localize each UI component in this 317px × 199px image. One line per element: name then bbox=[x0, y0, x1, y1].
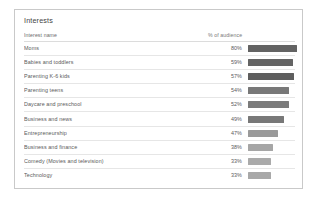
interest-name-cell: Business and finance bbox=[24, 144, 208, 151]
audience-bar bbox=[248, 101, 289, 108]
table-body: Moms80%Babies and toddlers59%Parenting K… bbox=[24, 42, 295, 183]
audience-bar bbox=[248, 158, 271, 165]
table-header-row: Interest name % of audience bbox=[24, 30, 295, 42]
bar-cell bbox=[242, 141, 295, 154]
interest-name-cell: Business and news bbox=[24, 116, 208, 123]
table-row: Moms80% bbox=[24, 42, 295, 56]
table-row: Technology33% bbox=[24, 169, 295, 183]
audience-bar bbox=[248, 144, 273, 151]
page-root: Interests Interest name % of audience Mo… bbox=[0, 0, 317, 199]
interest-name-cell: Daycare and preschool bbox=[24, 101, 208, 108]
interest-name-cell: Parenting K-6 kids bbox=[24, 73, 208, 80]
bar-cell bbox=[242, 127, 295, 140]
percent-value-cell: 80% bbox=[208, 45, 242, 52]
interest-name-cell: Parenting teens bbox=[24, 87, 208, 94]
audience-bar bbox=[248, 59, 293, 66]
table-row: Comedy (Movies and television)33% bbox=[24, 155, 295, 169]
table-row: Business and news49% bbox=[24, 112, 295, 126]
column-header-interest-name: Interest name bbox=[24, 32, 208, 39]
percent-value-cell: 33% bbox=[208, 158, 242, 165]
audience-bar bbox=[248, 45, 297, 52]
page-title: Interests bbox=[24, 16, 53, 25]
interest-name-cell: Comedy (Movies and television) bbox=[24, 158, 208, 165]
interest-name-cell: Technology bbox=[24, 172, 208, 179]
percent-value-cell: 47% bbox=[208, 130, 242, 137]
bar-cell bbox=[242, 112, 295, 125]
interest-name-cell: Entrepreneurship bbox=[24, 130, 208, 137]
percent-value-cell: 59% bbox=[208, 59, 242, 66]
column-header-percent-of-audience: % of audience bbox=[208, 32, 242, 39]
interest-name-cell: Babies and toddlers bbox=[24, 59, 208, 66]
bar-cell bbox=[242, 169, 295, 183]
column-header-bar-spacer bbox=[242, 30, 295, 41]
percent-value-cell: 52% bbox=[208, 101, 242, 108]
percent-value-cell: 38% bbox=[208, 144, 242, 151]
table-row: Parenting teens54% bbox=[24, 84, 295, 98]
bar-cell bbox=[242, 70, 295, 83]
table-row: Parenting K-6 kids57% bbox=[24, 70, 295, 84]
audience-bar bbox=[248, 73, 294, 80]
bar-cell bbox=[242, 42, 297, 55]
table-row: Daycare and preschool52% bbox=[24, 98, 295, 112]
table-row: Babies and toddlers59% bbox=[24, 56, 295, 70]
bar-cell bbox=[242, 98, 295, 111]
audience-bar bbox=[248, 116, 284, 123]
interests-card: Interests Interest name % of audience Mo… bbox=[14, 9, 303, 189]
bar-cell bbox=[242, 155, 295, 168]
percent-value-cell: 54% bbox=[208, 87, 242, 94]
audience-bar bbox=[248, 172, 271, 179]
percent-value-cell: 57% bbox=[208, 73, 242, 80]
table-row: Business and finance38% bbox=[24, 141, 295, 155]
bar-cell bbox=[242, 56, 295, 69]
bar-cell bbox=[242, 84, 295, 97]
percent-value-cell: 49% bbox=[208, 116, 242, 123]
percent-value-cell: 33% bbox=[208, 172, 242, 179]
interests-table: Interest name % of audience Moms80%Babie… bbox=[24, 30, 295, 183]
interest-name-cell: Moms bbox=[24, 45, 208, 52]
table-row: Entrepreneurship47% bbox=[24, 127, 295, 141]
audience-bar bbox=[248, 130, 278, 137]
audience-bar bbox=[248, 87, 289, 94]
